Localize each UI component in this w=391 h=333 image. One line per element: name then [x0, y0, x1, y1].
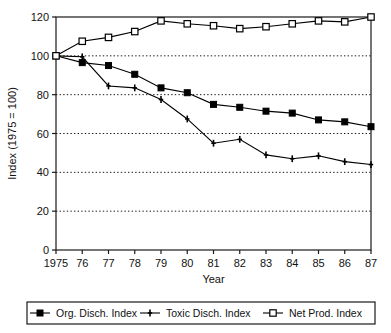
data-point — [342, 119, 348, 125]
data-point — [211, 101, 217, 107]
x-tick-label: 86 — [339, 257, 351, 269]
legend-marker-filled-square-icon — [37, 310, 43, 316]
data-point — [289, 110, 295, 116]
data-point — [237, 25, 243, 31]
data-point — [263, 24, 269, 30]
x-tick-label: 82 — [234, 257, 246, 269]
data-point — [158, 18, 164, 24]
data-point — [158, 85, 164, 91]
legend: Org. Disch. IndexToxic Disch. IndexNet P… — [27, 302, 375, 324]
legend-marker-open-square-icon — [270, 310, 276, 316]
y-tick-label: 40 — [37, 166, 49, 178]
y-tick-label: 20 — [37, 205, 49, 217]
data-point — [53, 53, 59, 59]
legend-label: Org. Disch. Index — [56, 307, 138, 319]
data-point — [184, 21, 190, 27]
data-point — [237, 104, 243, 110]
x-tick-label: 80 — [181, 257, 193, 269]
data-point — [289, 21, 295, 27]
x-tick-label: 83 — [260, 257, 272, 269]
y-tick-label: 100 — [31, 50, 49, 62]
x-tick-label: 77 — [102, 257, 114, 269]
y-tick-label: 0 — [43, 244, 49, 256]
data-point — [263, 108, 269, 114]
data-point — [184, 90, 190, 96]
x-tick-label: 84 — [286, 257, 298, 269]
data-point — [105, 34, 111, 40]
x-tick-label: 87 — [365, 257, 377, 269]
data-point — [315, 18, 321, 24]
x-tick-label: 1975 — [44, 257, 68, 269]
data-point — [132, 28, 138, 34]
x-tick-label: 78 — [129, 257, 141, 269]
x-tick-label: 79 — [155, 257, 167, 269]
y-tick-label: 80 — [37, 89, 49, 101]
x-tick-label: 81 — [207, 257, 219, 269]
chart-canvas: 0204060801001201975767778798081828384858… — [0, 0, 391, 333]
x-tick-label: 85 — [312, 257, 324, 269]
data-point — [368, 14, 374, 20]
x-axis-title: Year — [202, 273, 225, 285]
data-point — [79, 38, 85, 44]
data-point — [316, 117, 322, 123]
data-point — [342, 19, 348, 25]
x-tick-label: 76 — [76, 257, 88, 269]
data-point — [79, 60, 85, 66]
data-point — [368, 124, 374, 130]
y-axis-title: Index (1975 = 100) — [6, 87, 18, 180]
data-point — [132, 71, 138, 77]
legend-label: Net Prod. Index — [289, 307, 363, 319]
legend-label: Toxic Disch. Index — [166, 307, 251, 319]
line-chart: 0204060801001201975767778798081828384858… — [0, 0, 391, 333]
data-point — [210, 23, 216, 29]
data-point — [106, 63, 112, 69]
y-tick-label: 60 — [37, 128, 49, 140]
y-tick-label: 120 — [31, 11, 49, 23]
